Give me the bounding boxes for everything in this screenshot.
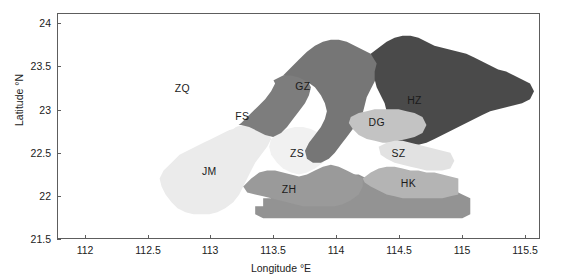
y-axis-title: Latitude °N xyxy=(13,40,25,160)
y-tick-mark xyxy=(57,110,61,111)
x-tick-mark xyxy=(273,235,274,239)
map-label-dg: DG xyxy=(368,117,384,128)
x-tick-mark xyxy=(399,235,400,239)
y-tick-mark xyxy=(57,66,61,67)
choropleth-map: ZQ FS GZ HZ DG SZ HK ZS ZH JM xyxy=(58,14,539,238)
y-tick-label: 22 xyxy=(17,190,51,202)
map-label-zs: ZS xyxy=(290,149,304,160)
x-tick-mark xyxy=(148,235,149,239)
y-tick-mark xyxy=(57,23,61,24)
x-tick-label: 112.5 xyxy=(135,244,161,256)
map-label-hk: HK xyxy=(401,178,416,189)
x-tick-mark xyxy=(462,235,463,239)
map-region-sz xyxy=(379,141,455,171)
map-label-gz: GZ xyxy=(295,81,311,92)
x-tick-label: 115.5 xyxy=(512,244,538,256)
x-tick-mark xyxy=(85,235,86,239)
y-tick-mark xyxy=(57,153,61,154)
map-label-zh: ZH xyxy=(282,184,297,195)
map-figure: ZQ FS GZ HZ DG SZ HK ZS ZH JM 112112.511… xyxy=(0,0,562,280)
x-tick-label: 114 xyxy=(328,244,345,256)
x-axis-title: Longitude °E xyxy=(0,262,562,274)
map-label-sz: SZ xyxy=(392,149,406,160)
x-tick-label: 112 xyxy=(77,244,94,256)
x-tick-label: 113.5 xyxy=(260,244,286,256)
x-tick-label: 114.5 xyxy=(386,244,412,256)
x-tick-mark xyxy=(525,235,526,239)
map-label-zq: ZQ xyxy=(175,83,190,94)
y-tick-mark xyxy=(57,239,61,240)
y-tick-mark xyxy=(57,196,61,197)
x-tick-label: 113 xyxy=(202,244,219,256)
x-tick-mark xyxy=(210,235,211,239)
map-label-jm: JM xyxy=(202,166,217,177)
map-label-fs: FS xyxy=(235,111,249,122)
map-label-hz: HZ xyxy=(407,95,422,106)
x-tick-mark xyxy=(336,235,337,239)
y-tick-label: 21.5 xyxy=(17,233,51,245)
x-tick-label: 115 xyxy=(454,244,471,256)
plot-area: ZQ FS GZ HZ DG SZ HK ZS ZH JM xyxy=(57,13,540,239)
y-tick-label: 24 xyxy=(17,17,51,29)
